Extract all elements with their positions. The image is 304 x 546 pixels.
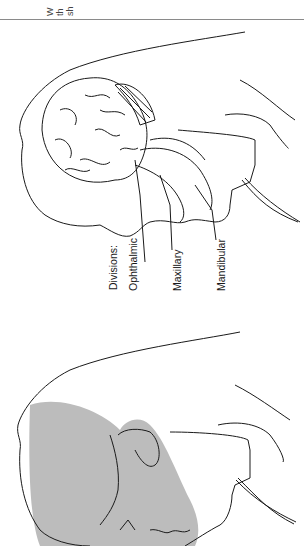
cerebellum — [115, 84, 155, 125]
upper-head-drawing — [20, 32, 300, 262]
label-maxillary: Maxillary — [172, 250, 183, 291]
label-divisions: Divisions: — [108, 245, 119, 290]
brain-outline — [42, 78, 147, 182]
shaded-area — [29, 402, 198, 546]
upper-head-outline — [20, 32, 245, 226]
mandibular-pointer — [195, 185, 216, 240]
label-mandibular: Mandibular — [216, 239, 227, 291]
face-lobes — [135, 138, 212, 222]
trigeminal-illustration — [0, 0, 304, 546]
label-ophthalmic: Ophthalmic — [128, 238, 139, 291]
